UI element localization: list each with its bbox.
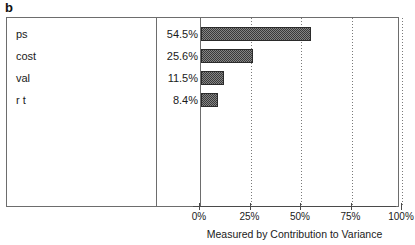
x-tick-75 — [351, 203, 352, 210]
row-category-label: val — [16, 67, 30, 89]
x-tick-label: 25% — [239, 210, 259, 224]
bar — [201, 27, 311, 41]
bar — [201, 49, 253, 63]
x-tick-label: 100% — [388, 210, 414, 224]
row-category-label: r t — [16, 89, 26, 111]
row-value-label: 8.4% — [157, 89, 198, 111]
row-value-label: 11.5% — [157, 67, 198, 89]
x-tick-label: 50% — [290, 210, 310, 224]
bar-row: val11.5% — [7, 67, 398, 89]
x-tick-25 — [250, 203, 251, 210]
plot-frame: ps54.5%cost25.6%val11.5%r t8.4% — [6, 17, 399, 207]
x-axis-line — [193, 206, 396, 207]
x-tick-100 — [401, 203, 402, 210]
x-tick-label: 0% — [192, 210, 206, 224]
bar-chart-figure: b ps54.5%cost25.6%val11.5%r t8.4% 0%25%5… — [0, 0, 415, 245]
x-tick-0 — [199, 203, 200, 210]
row-value-label: 54.5% — [157, 23, 198, 45]
panel-label: b — [5, 0, 13, 16]
bar — [201, 93, 218, 107]
bar-row: r t8.4% — [7, 89, 398, 111]
x-axis-title: Measured by Contribution to Variance — [193, 227, 396, 241]
bar-row: ps54.5% — [7, 23, 398, 45]
bar-row: cost25.6% — [7, 45, 398, 67]
row-value-label: 25.6% — [157, 45, 198, 67]
x-tick-50 — [300, 203, 301, 210]
gridline-100 — [402, 18, 403, 206]
row-category-label: cost — [16, 45, 36, 67]
row-category-label: ps — [16, 23, 28, 45]
x-tick-label: 75% — [340, 210, 360, 224]
bar — [201, 71, 224, 85]
